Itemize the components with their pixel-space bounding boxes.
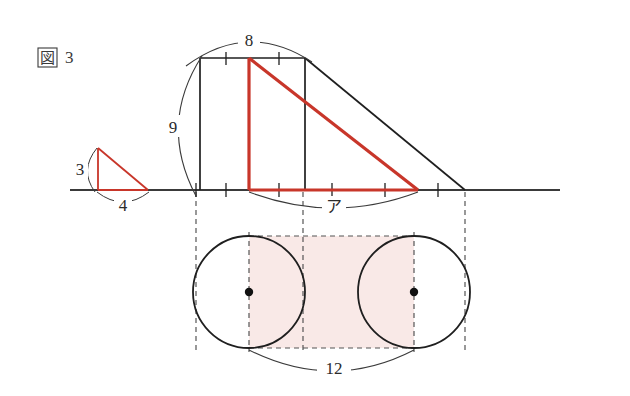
figure-label-number: 3 bbox=[65, 48, 74, 67]
figure-container: 12 8 9 ア bbox=[0, 0, 630, 396]
red-hypotenuse bbox=[249, 58, 418, 190]
width-label: 12 bbox=[326, 359, 343, 378]
rect-top-label: 8 bbox=[245, 31, 254, 50]
small-triangle-base-label: 4 bbox=[119, 196, 128, 215]
region-label: ア bbox=[326, 197, 342, 216]
geometry-diagram: 12 8 9 ア bbox=[0, 0, 630, 396]
small-triangle-hypotenuse bbox=[98, 148, 148, 190]
left-circle-center-dot bbox=[245, 288, 253, 296]
right-circle-center-dot bbox=[410, 288, 418, 296]
rect-height-label: 9 bbox=[169, 118, 178, 137]
small-height-arc bbox=[87, 148, 97, 192]
small-triangle-height-label: 3 bbox=[76, 160, 85, 179]
figure-label-kanji: 図 bbox=[40, 49, 55, 67]
black-hypotenuse bbox=[305, 58, 465, 190]
